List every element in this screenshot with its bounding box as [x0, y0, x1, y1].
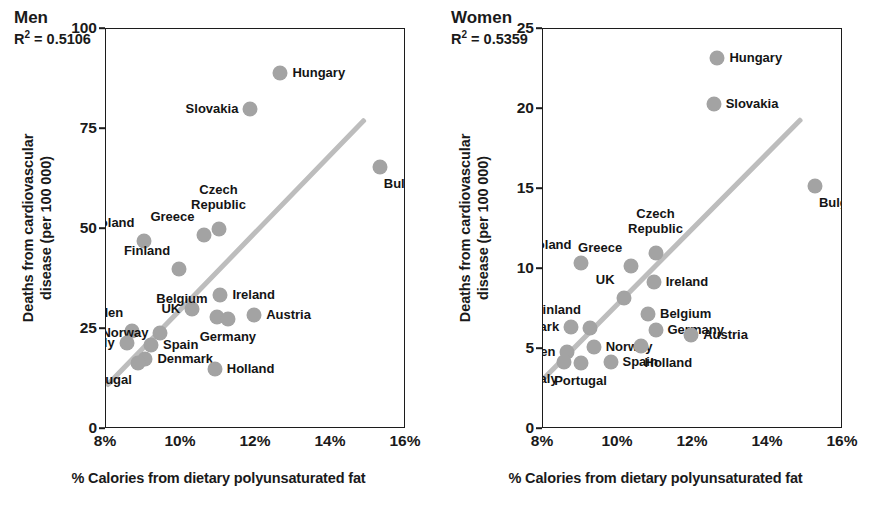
- data-point-label: Poland: [543, 238, 572, 252]
- data-point-marker[interactable]: [616, 290, 631, 305]
- x-axis-tick-label: 10%: [601, 432, 632, 450]
- y-axis-tick-mark: [536, 347, 542, 349]
- data-point-marker[interactable]: [172, 262, 187, 277]
- data-point-label: CzechRepublic: [191, 183, 246, 212]
- data-point-label: Austria: [266, 308, 311, 322]
- data-point-label: Denmark: [543, 320, 559, 334]
- x-axis-title-men: % Calories from dietary polyunsaturated …: [0, 470, 437, 486]
- data-point-label-line: Republic: [191, 198, 246, 213]
- data-point-marker[interactable]: [220, 312, 235, 327]
- x-axis-tick-label: 8%: [94, 432, 116, 450]
- data-point-label: Austria: [703, 328, 748, 342]
- data-point-marker[interactable]: [573, 255, 588, 270]
- x-axis-tick-label: 14%: [751, 432, 782, 450]
- data-point-label: CzechRepublic: [628, 207, 683, 236]
- y-axis-tick-mark: [536, 27, 542, 29]
- data-point-label-line: Czech: [191, 183, 246, 198]
- data-point-marker[interactable]: [648, 246, 663, 261]
- y-axis-tick-mark: [99, 427, 105, 429]
- y-axis-tick-label: 15: [517, 179, 534, 197]
- y-axis-tick-mark: [536, 107, 542, 109]
- data-point-label: Portugal: [106, 373, 132, 387]
- plot-canvas-women: HungarySlovakiaBulgariaCzechRepublicPola…: [543, 29, 841, 427]
- y-axis-tick-mark: [536, 187, 542, 189]
- data-point-marker[interactable]: [196, 228, 211, 243]
- y-axis-tick-mark: [99, 127, 105, 129]
- panel-men: Deaths from cardiovascular disease (per …: [0, 0, 437, 523]
- y-axis-tick-mark: [99, 27, 105, 29]
- data-point-marker[interactable]: [641, 306, 656, 321]
- data-point-label-line: Czech: [628, 207, 683, 222]
- data-point-marker[interactable]: [556, 354, 571, 369]
- x-axis-tick-label: 16%: [389, 432, 420, 450]
- data-point-marker[interactable]: [130, 356, 145, 371]
- data-point-marker[interactable]: [119, 336, 134, 351]
- y-axis-tick-mark: [536, 427, 542, 429]
- plot-canvas-men: HungarySlovakiaBulgariaCzechRepublicGree…: [106, 29, 404, 427]
- y-axis-tick-label: 100: [71, 19, 97, 37]
- data-point-marker[interactable]: [273, 66, 288, 81]
- data-point-marker[interactable]: [144, 338, 159, 353]
- data-point-marker[interactable]: [247, 308, 262, 323]
- y-axis-title-women: Deaths from cardiovascular disease (per …: [451, 28, 497, 428]
- data-point-marker[interactable]: [624, 258, 639, 273]
- panel-women: Deaths from cardiovascular disease (per …: [437, 0, 874, 523]
- data-point-marker[interactable]: [807, 178, 822, 193]
- data-point-marker[interactable]: [243, 102, 258, 117]
- y-axis-tick-label: 25: [80, 319, 97, 337]
- data-point-marker[interactable]: [582, 321, 597, 336]
- data-point-label: Greece: [578, 241, 622, 255]
- data-point-label: Holland: [227, 362, 275, 376]
- data-point-label: Finland: [124, 244, 170, 258]
- data-point-label: Poland: [106, 216, 135, 230]
- data-point-label: Belgium: [660, 307, 711, 321]
- data-point-label: Italy: [106, 336, 115, 350]
- data-point-label: Spain: [623, 355, 658, 369]
- data-point-label: Portugal: [554, 374, 607, 388]
- data-point-marker[interactable]: [564, 319, 579, 334]
- data-point-marker[interactable]: [646, 274, 661, 289]
- data-point-label: Slovakia: [186, 102, 239, 116]
- plot-area-men: HungarySlovakiaBulgariaCzechRepublicGree…: [105, 28, 405, 428]
- data-point-marker[interactable]: [207, 362, 222, 377]
- x-axis-tick-label: 14%: [314, 432, 345, 450]
- data-point-label: Hungary: [729, 51, 782, 65]
- data-point-marker[interactable]: [573, 356, 588, 371]
- y-axis-tick-label: 50: [80, 219, 97, 237]
- y-axis-title-men: Deaths from cardiovascular disease (per …: [14, 28, 60, 428]
- data-point-label: Bulgaria: [384, 177, 404, 191]
- data-point-label: Sweden: [543, 345, 555, 359]
- y-axis-title-line2: disease (per 100 000): [474, 156, 492, 300]
- data-point-label-line: Republic: [628, 222, 683, 237]
- data-point-label: Belgium: [156, 292, 207, 306]
- data-point-label: Ireland: [666, 275, 709, 289]
- x-axis-tick-label: 16%: [826, 432, 857, 450]
- y-axis-tick-label: 10: [517, 259, 534, 277]
- data-point-marker[interactable]: [706, 97, 721, 112]
- data-point-marker[interactable]: [603, 354, 618, 369]
- plot-area-women: HungarySlovakiaBulgariaCzechRepublicPola…: [542, 28, 842, 428]
- data-point-label: Sweden: [106, 306, 123, 320]
- data-point-marker[interactable]: [372, 160, 387, 175]
- y-axis-tick-mark: [99, 227, 105, 229]
- y-axis-tick-label: 20: [517, 99, 534, 117]
- data-point-label: Finland: [543, 303, 581, 317]
- x-axis-tick-label: 12%: [676, 432, 707, 450]
- data-point-label: Slovakia: [726, 97, 779, 111]
- x-axis-tick-label: 10%: [164, 432, 195, 450]
- data-point-label: Germany: [200, 330, 256, 344]
- data-point-marker[interactable]: [213, 288, 228, 303]
- data-point-label: Denmark: [157, 352, 213, 366]
- data-point-marker[interactable]: [648, 322, 663, 337]
- data-point-marker[interactable]: [633, 338, 648, 353]
- data-point-marker[interactable]: [710, 50, 725, 65]
- data-point-label: Bulgaria: [819, 196, 841, 210]
- y-axis-title-line2: disease (per 100 000): [37, 156, 55, 300]
- data-point-label: Hungary: [292, 66, 345, 80]
- data-point-marker[interactable]: [684, 327, 699, 342]
- data-point-marker[interactable]: [211, 222, 226, 237]
- data-point-marker[interactable]: [586, 340, 601, 355]
- x-axis-tick-label: 8%: [531, 432, 553, 450]
- y-axis-tick-label: 75: [80, 119, 97, 137]
- y-axis-title-line1: Deaths from cardiovascular: [19, 134, 37, 322]
